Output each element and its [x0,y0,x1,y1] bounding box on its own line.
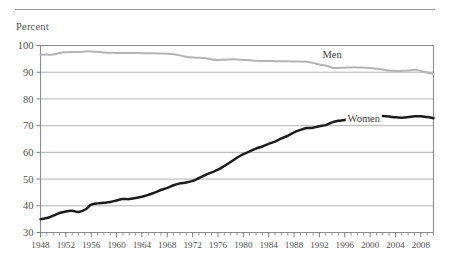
series-line-men [41,51,434,74]
y-tick-label-40: 40 [23,200,34,211]
x-tick-label-1956: 1956 [82,240,101,250]
x-tick-label-1988: 1988 [285,240,304,250]
x-tick-label-1964: 1964 [133,240,152,250]
y-tick-label-60: 60 [23,147,34,158]
y-tick-label-30: 30 [23,227,34,238]
x-tick-label-1968: 1968 [158,240,177,250]
chart-figure: Percent 30405060708090100 19481952195619… [0,0,452,265]
x-tick-label-1952: 1952 [57,240,76,250]
x-tickmarks-group [41,233,434,238]
gridlines-group [41,46,434,206]
series-group [41,51,434,219]
series-label-women: Women [348,113,381,124]
x-tick-label-1992: 1992 [310,240,329,250]
series-label-men: Men [322,49,342,60]
y-tick-label-70: 70 [23,120,34,131]
x-tick-label-1972: 1972 [183,240,202,250]
x-tick-label-1984: 1984 [260,240,279,250]
x-tick-label-2000: 2000 [361,240,380,250]
x-tick-label-1960: 1960 [107,240,126,250]
x-tick-label-1996: 1996 [336,240,355,250]
y-tick-label-50: 50 [23,174,34,185]
series-annotations-group: MenWomen [320,49,382,125]
y-tick-label-90: 90 [23,67,34,78]
x-tick-label-2008: 2008 [412,240,431,250]
x-tick-label-1976: 1976 [209,240,228,250]
series-line-women [41,115,434,219]
y-tick-labels-group: 30405060708090100 [18,40,34,238]
y-tick-label-100: 100 [18,40,34,51]
x-tick-labels-group: 1948195219561960196419681972197619801984… [31,240,430,250]
line-chart-plot: 30405060708090100 1948195219561960196419… [0,0,452,265]
y-tick-label-80: 80 [23,94,34,105]
x-tick-label-1980: 1980 [234,240,253,250]
x-tick-label-2004: 2004 [386,240,405,250]
x-tick-label-1948: 1948 [31,240,50,250]
